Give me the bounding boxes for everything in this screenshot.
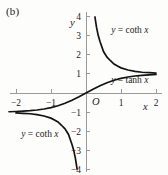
x-tick-label: 1 [119,98,124,108]
y-tick-label: −1 [71,108,81,118]
x-tick-labels: −2−112 [11,98,159,108]
figure-panel: (b) −2−112 4321−1−2−3−4 O x y y = coth x… [0,0,168,175]
x-axis-label: x [142,101,148,112]
coth-lower-label: y = coth x [20,129,59,139]
tanh-label: y = tanh x [110,75,149,85]
coth-upper-label: y = coth x [110,25,149,35]
y-tick-label: −2 [71,127,81,137]
y-tick-label: 1 [76,69,81,79]
y-axis-label: y [69,17,75,28]
origin-label: O [92,96,100,107]
curve-coth-negative [16,113,77,169]
curve-annotations: y = coth xy = tanh xy = coth x [20,25,149,139]
x-tick-label: −2 [11,98,21,108]
y-tick-label: 2 [76,50,81,60]
hyperbolic-functions-plot: −2−112 4321−1−2−3−4 O x y y = coth xy = … [0,0,168,175]
y-tick-label: 4 [76,12,81,22]
y-tick-label: 3 [76,31,81,41]
x-tick-label: 2 [154,98,159,108]
axes-group [10,12,162,172]
